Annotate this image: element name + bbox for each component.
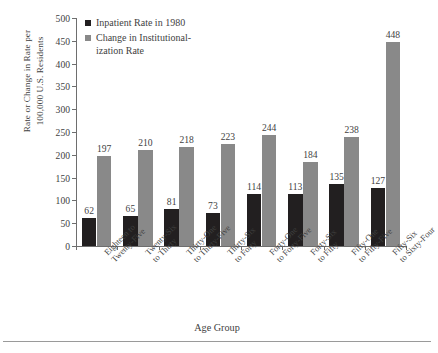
y-axis-tick: [72, 178, 76, 179]
y-axis-title: Rate or Change in Rate per 100,000 U.S. …: [21, 0, 55, 179]
y-axis-tick-label: 300: [56, 104, 70, 115]
legend-item-change-institutionalization: Change in Institutional- ization Rate: [85, 31, 275, 58]
y-axis-tick-label: 100: [56, 195, 70, 206]
bar-value-label: 62: [84, 205, 94, 216]
y-axis-title-line1: Rate or Change in Rate per: [21, 0, 34, 179]
y-axis-tick: [72, 223, 76, 224]
legend-label-series1: Change in Institutional- ization Rate: [96, 31, 191, 58]
bar-value-label: 223: [221, 131, 235, 142]
bar-value-label: 197: [97, 143, 111, 154]
bar-value-label: 218: [179, 134, 193, 145]
page-bottom-rule: [3, 341, 431, 342]
bar-change-rate: [386, 42, 401, 246]
bar-change-rate: [344, 137, 359, 246]
bar-value-label: 448: [386, 29, 400, 40]
x-axis-tick: [76, 246, 77, 250]
bar-change-rate: [97, 156, 112, 246]
y-axis-tick: [72, 41, 76, 42]
bar-value-label: 113: [288, 181, 302, 192]
bar-value-label: 65: [126, 203, 136, 214]
legend-label-series1-line2: ization Rate: [96, 45, 144, 56]
bar-value-label: 114: [247, 181, 261, 192]
bar-value-label: 244: [262, 122, 276, 133]
legend-label-series0: Inpatient Rate in 1980: [96, 16, 185, 30]
y-axis-tick-label: 150: [56, 172, 70, 183]
y-axis-tick-label: 450: [56, 35, 70, 46]
y-axis-tick: [72, 109, 76, 110]
legend-swatch-icon-series1: [85, 35, 91, 41]
x-axis-title: Age Group: [0, 322, 434, 333]
y-axis-tick-label: 500: [56, 13, 70, 24]
chart-legend: Inpatient Rate in 1980 Change in Institu…: [85, 16, 275, 59]
bar-value-label: 73: [208, 200, 218, 211]
y-axis-tick-label: 50: [60, 218, 70, 229]
bar-value-label: 127: [371, 175, 385, 186]
bar-change-rate: [262, 135, 277, 246]
y-axis-tick: [72, 64, 76, 65]
y-axis-tick: [72, 200, 76, 201]
bar-value-label: 81: [167, 196, 177, 207]
y-axis-tick-label: 0: [65, 241, 70, 252]
bar-inpatient-rate: [82, 218, 97, 246]
y-axis-tick: [72, 132, 76, 133]
y-axis-tick: [72, 155, 76, 156]
legend-item-inpatient-rate: Inpatient Rate in 1980: [85, 16, 275, 30]
legend-swatch-icon-series0: [85, 20, 91, 26]
y-axis-tick-label: 350: [56, 81, 70, 92]
y-axis-line: [76, 18, 77, 246]
y-axis-tick: [72, 86, 76, 87]
y-axis-tick-label: 400: [56, 58, 70, 69]
bar-value-label: 238: [344, 124, 358, 135]
bar-value-label: 135: [329, 171, 343, 182]
y-axis-tick: [72, 18, 76, 19]
y-axis-tick-label: 200: [56, 149, 70, 160]
bar-value-label: 184: [303, 149, 317, 160]
y-axis-tick-label: 250: [56, 127, 70, 138]
legend-label-series1-line1: Change in Institutional-: [96, 32, 191, 43]
y-axis-title-line2: 100,000 U.S. Residents: [34, 0, 47, 179]
bar-value-label: 210: [138, 137, 152, 148]
